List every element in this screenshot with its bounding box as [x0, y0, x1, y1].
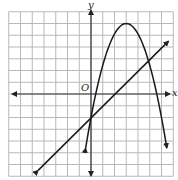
y-axis-label: y: [88, 0, 94, 10]
x-axis-label: x: [172, 87, 178, 98]
origin-label: O: [81, 82, 89, 93]
